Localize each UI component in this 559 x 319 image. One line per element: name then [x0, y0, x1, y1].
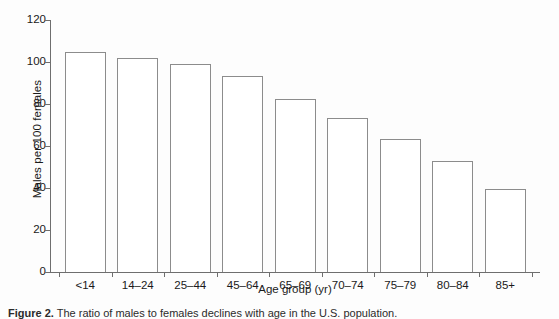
- bar: [380, 139, 421, 272]
- y-axis-tick-label: 20: [2, 224, 46, 236]
- y-axis-tick-label: 40: [2, 182, 46, 194]
- y-axis-tick: [45, 272, 50, 273]
- x-axis-tick: [269, 272, 270, 277]
- bar: [432, 161, 473, 272]
- figure-caption-text: The ratio of males to females declines w…: [57, 307, 398, 319]
- x-axis-title: Age group (yr): [50, 283, 540, 295]
- y-axis-tick-labels: 020406080100120: [0, 0, 46, 319]
- y-axis-tick: [45, 230, 50, 231]
- x-axis-tick: [217, 272, 218, 277]
- plot-area: <1414–2425–4445–6465–6970–7475–7980–8485…: [50, 20, 540, 272]
- x-axis-tick: [164, 272, 165, 277]
- bar: [170, 64, 211, 272]
- x-axis-spine: [50, 272, 540, 273]
- x-axis-tick: [427, 272, 428, 277]
- y-axis-spine: [50, 20, 51, 272]
- x-axis-tick: [322, 272, 323, 277]
- figure-caption: Figure 2. The ratio of males to females …: [8, 307, 553, 319]
- bar: [117, 58, 158, 272]
- x-axis-tick: [374, 272, 375, 277]
- x-axis-tick: [532, 272, 533, 277]
- y-axis-tick: [45, 188, 50, 189]
- x-axis-tick: [479, 272, 480, 277]
- y-axis-tick-label: 120: [2, 14, 46, 26]
- x-axis-tick: [112, 272, 113, 277]
- bar: [485, 189, 526, 272]
- bar: [65, 52, 106, 273]
- y-axis-tick: [45, 20, 50, 21]
- y-axis-tick-label: 100: [2, 56, 46, 68]
- y-axis-tick-label: 60: [2, 140, 46, 152]
- figure-bar-chart: Males per 100 females 020406080100120 <1…: [0, 0, 559, 319]
- figure-caption-label: Figure 2.: [8, 307, 54, 319]
- bar: [327, 118, 368, 272]
- x-axis-tick: [59, 272, 60, 277]
- y-axis-tick: [45, 62, 50, 63]
- y-axis-tick-label: 80: [2, 98, 46, 110]
- bar: [222, 76, 263, 272]
- bar: [275, 99, 316, 272]
- y-axis-tick-label: 0: [2, 266, 46, 278]
- y-axis-tick: [45, 104, 50, 105]
- y-axis-tick: [45, 146, 50, 147]
